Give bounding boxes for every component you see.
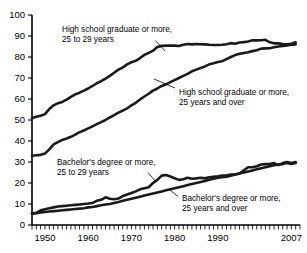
y-tick-label: 90	[14, 30, 25, 41]
y-tick-label: 20	[14, 177, 25, 188]
chart-background	[0, 0, 307, 253]
annotation-hs-25-over-line2: 25 years and over	[179, 98, 245, 107]
x-tick-label: 1970	[121, 232, 142, 243]
x-tick-label: 1980	[164, 232, 185, 243]
x-tick-label: 1990	[207, 232, 228, 243]
y-tick-label: 30	[14, 156, 25, 167]
annotation-hs-25-29-line1: High school graduate or more,	[62, 25, 172, 34]
annotation-ba-25-29-line1: Bachelor's degree or more,	[57, 158, 156, 167]
y-tick-label: 60	[14, 93, 25, 104]
y-tick-label: 50	[14, 114, 25, 125]
x-tick-label: 2007	[281, 232, 302, 243]
annotation-ba-25-over-line1: Bachelor's degree or more,	[182, 194, 281, 203]
y-tick-label: 70	[14, 72, 25, 83]
x-tick-label: 1950	[34, 232, 55, 243]
x-tick-label: 1960	[78, 232, 99, 243]
y-tick-label: 100	[9, 9, 25, 20]
education-attainment-line-chart: 0102030405060708090100 19501960197019801…	[0, 0, 307, 253]
annotation-ba-25-over-line2: 25 years and over	[182, 204, 248, 213]
y-tick-label: 40	[14, 135, 25, 146]
chart-container: 0102030405060708090100 19501960197019801…	[0, 0, 307, 253]
annotation-hs-25-29-line2: 25 to 29 years	[62, 35, 114, 44]
y-tick-label: 10	[14, 198, 25, 209]
y-tick-label: 80	[14, 51, 25, 62]
y-tick-label: 0	[20, 219, 25, 230]
annotation-hs-25-over-line1: High school graduate or more,	[179, 88, 289, 97]
annotation-ba-25-29-line2: 25 to 29 years	[57, 168, 109, 177]
